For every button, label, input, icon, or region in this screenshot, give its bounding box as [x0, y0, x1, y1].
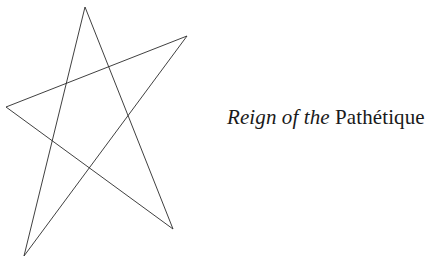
title-italic: Reign of the — [227, 105, 330, 129]
title-roman: Pathétique — [335, 105, 425, 129]
page-title: Reign of the Pathétique — [227, 105, 425, 130]
star-edge — [24, 7, 85, 256]
star-edge — [85, 7, 173, 229]
star-edge — [6, 36, 187, 107]
star-edge — [24, 36, 187, 256]
